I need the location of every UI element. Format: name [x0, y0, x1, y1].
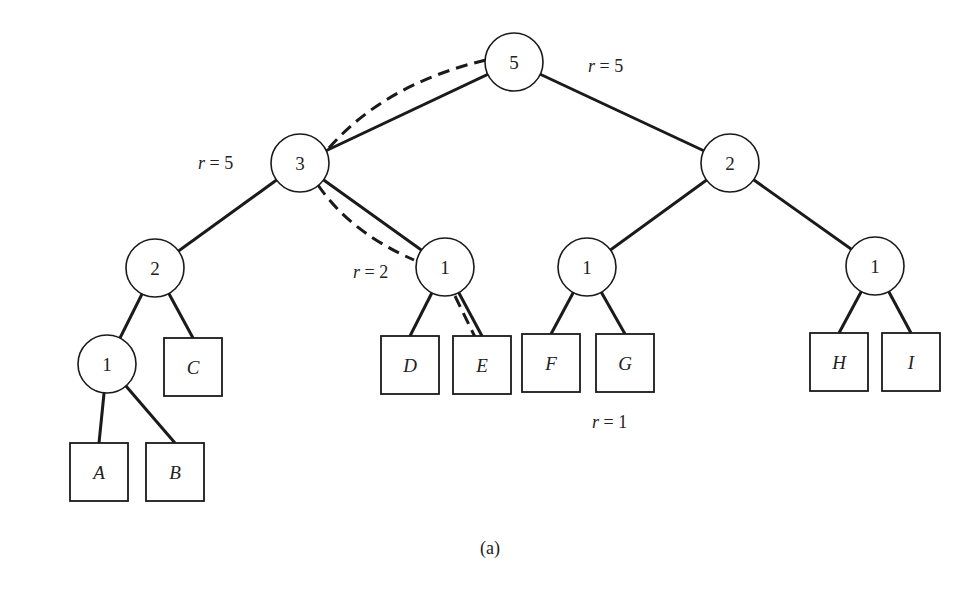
- leaf-label: H: [831, 352, 847, 373]
- tree-svg: 53221111 ABCDEFGHI r = 5r = 5r = 2r = 1 …: [0, 0, 977, 591]
- tree-node-n1h: 1: [846, 237, 904, 295]
- rank-annotation-r-n1m: r = 2: [353, 262, 388, 282]
- rank-value: = 5: [205, 153, 233, 173]
- leaf-label: F: [544, 353, 557, 374]
- leaf-C: C: [164, 338, 222, 396]
- figure-caption: (a): [480, 538, 500, 559]
- leaf-G: G: [596, 334, 654, 392]
- leaf-A: A: [70, 443, 128, 501]
- leaf-I: I: [882, 333, 940, 391]
- tree-node-n1f: 1: [558, 238, 616, 296]
- leaf-B: B: [146, 443, 204, 501]
- leaf-H: H: [810, 333, 868, 391]
- tree-node-n2l: 2: [126, 239, 184, 297]
- rank-value: = 2: [360, 262, 388, 282]
- edge-n5-n3: [300, 62, 514, 163]
- leaf-F: F: [522, 334, 580, 392]
- rank-annotation-r-root: r = 5: [588, 56, 623, 76]
- rank-annotation-r-leaf: r = 1: [592, 412, 627, 432]
- leaf-label: E: [475, 355, 488, 376]
- node-label: 1: [582, 257, 592, 278]
- leaf-nodes-layer: ABCDEFGHI: [70, 333, 940, 501]
- leaf-E: E: [453, 336, 511, 394]
- rank-value: = 5: [595, 56, 623, 76]
- rank-annotation-r-n3: r = 5: [198, 153, 233, 173]
- node-label: 3: [295, 153, 305, 174]
- leaf-label: B: [169, 462, 181, 483]
- tree-node-n3: 3: [271, 134, 329, 192]
- node-label: 1: [440, 257, 450, 278]
- tree-node-n1a: 1: [78, 335, 136, 393]
- leaf-D: D: [381, 336, 439, 394]
- node-label: 2: [150, 258, 160, 279]
- leaf-label: D: [402, 355, 417, 376]
- node-label: 5: [509, 52, 519, 73]
- tree-node-n2r: 2: [701, 134, 759, 192]
- tree-node-n5: 5: [485, 33, 543, 91]
- node-label: 1: [870, 256, 880, 277]
- tree-diagram: 53221111 ABCDEFGHI r = 5r = 5r = 2r = 1 …: [0, 0, 977, 591]
- dashed-path-3-to-1: [318, 185, 414, 260]
- node-label: 1: [102, 354, 112, 375]
- edge-n5-n2r: [514, 62, 730, 163]
- tree-node-n1m: 1: [416, 238, 474, 296]
- leaf-label: C: [187, 357, 200, 378]
- leaf-label: A: [91, 462, 105, 483]
- node-label: 2: [725, 153, 735, 174]
- leaf-label: G: [618, 353, 632, 374]
- rank-value: = 1: [599, 412, 627, 432]
